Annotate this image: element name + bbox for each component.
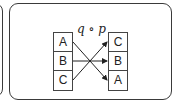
left-cell-a: A <box>54 33 72 52</box>
right-cell-a: A <box>109 71 127 90</box>
right-cell-b: B <box>109 52 127 71</box>
right-column: C B A <box>108 32 128 91</box>
left-column: A B C <box>53 32 73 91</box>
mapping-arrows <box>0 0 180 105</box>
left-cell-c: C <box>54 71 72 90</box>
right-cell-c: C <box>109 33 127 52</box>
left-cell-b: B <box>54 52 72 71</box>
composition-label: q ∘ p <box>77 22 106 36</box>
